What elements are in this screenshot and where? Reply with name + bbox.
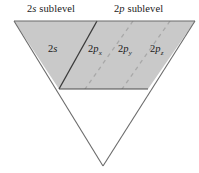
- orbital-label-2s: 2s: [48, 44, 58, 57]
- diagram-canvas: [0, 0, 199, 173]
- shaded-sublevel-band: [14, 21, 195, 89]
- heading-2s-suffix: sublevel: [37, 3, 76, 14]
- orbital-2px-subscript: x: [99, 49, 102, 57]
- orbital-label-2px: 2px: [88, 44, 102, 57]
- orbital-2pz-subscript: z: [161, 49, 164, 57]
- orbital-2s-italic: s: [53, 43, 57, 54]
- orbital-label-2py: 2py: [118, 44, 132, 57]
- heading-2p-sublevel: 2p sublevel: [114, 4, 163, 15]
- heading-2p-suffix: sublevel: [125, 3, 164, 14]
- energy-sublevel-diagram: 2s sublevel 2p sublevel 2s 2px 2py 2pz: [0, 0, 199, 173]
- heading-2s-sublevel: 2s sublevel: [27, 4, 75, 15]
- orbital-label-2pz: 2pz: [150, 44, 164, 57]
- orbital-2py-subscript: y: [129, 49, 132, 57]
